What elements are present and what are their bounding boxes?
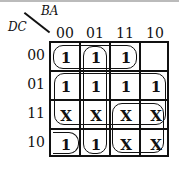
- col-header: 11: [110, 25, 140, 41]
- kmap-grid: 1 1 1 1 1 1 1 X X X X 1 1 X X: [49, 41, 169, 157]
- row-header: 01: [25, 76, 45, 92]
- group-loop-corner: [53, 132, 79, 154]
- top-border: [0, 0, 179, 2]
- group-loop-right: [112, 103, 164, 153]
- col-header: 01: [80, 25, 110, 41]
- col-header: 10: [140, 25, 170, 41]
- group-loop-col01: [83, 46, 107, 154]
- row-header: 10: [25, 134, 45, 150]
- row-header: 00: [25, 47, 45, 63]
- col-variable-label: BA: [41, 4, 58, 18]
- cell: [141, 43, 171, 72]
- row-header: 11: [25, 105, 45, 121]
- row-variable-label: DC: [8, 20, 27, 34]
- col-header: 00: [50, 25, 80, 41]
